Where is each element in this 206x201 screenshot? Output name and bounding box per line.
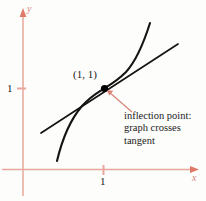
y-axis-arrowhead xyxy=(20,8,27,17)
annotation-line-3: tangent xyxy=(124,135,206,147)
inflection-point-annotation: inflection point: graph crosses tangent xyxy=(124,110,206,147)
y-axis-label: y xyxy=(27,3,31,15)
inflection-point-coordinate-label: (1, 1) xyxy=(73,68,97,81)
x-axis-label: x xyxy=(192,172,196,184)
figure-canvas xyxy=(0,0,206,201)
inflection-point-figure: y x 1 1 (1, 1) inflection point: graph c… xyxy=(0,0,206,201)
inflection-point-dot xyxy=(101,85,108,92)
y-axis-tick-label-1: 1 xyxy=(7,82,13,95)
annotation-line-2: graph crosses xyxy=(124,122,206,134)
x-axis-tick-label-1: 1 xyxy=(100,175,106,188)
annotation-leader-line xyxy=(109,92,132,112)
annotation-line-1: inflection point: xyxy=(124,110,206,122)
